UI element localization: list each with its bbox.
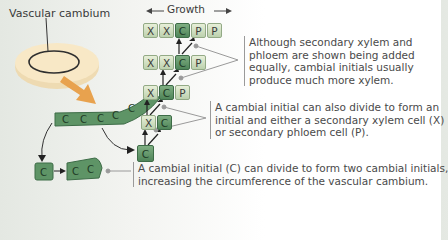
xylem-cell: X — [143, 23, 158, 38]
cambial-cell: C — [137, 145, 154, 162]
svg-text:C: C — [112, 110, 119, 121]
annotation-circumference: A cambial initial (C) can divide to form… — [133, 162, 448, 187]
phloem-cell: P — [191, 23, 206, 38]
cambial-cell: C — [159, 85, 174, 100]
xylem-cell: X — [141, 115, 156, 130]
cambial-cell: C — [175, 23, 190, 38]
svg-text:C: C — [97, 113, 104, 124]
svg-text:C: C — [40, 167, 47, 178]
phloem-cell: P — [191, 55, 206, 70]
xylem-cell: X — [143, 85, 158, 100]
growth-label: Growth — [167, 3, 205, 15]
svg-text:C: C — [62, 114, 69, 125]
cambial-cell: C — [175, 55, 190, 70]
xylem-cell: X — [159, 55, 174, 70]
phloem-cell: P — [175, 85, 190, 100]
phloem-cell: P — [207, 23, 222, 38]
svg-text:C: C — [72, 166, 79, 177]
svg-text:C: C — [87, 164, 94, 175]
svg-text:C: C — [80, 114, 87, 125]
cambial-cell: C — [157, 115, 172, 130]
annotation-xylem-production: Although secondary xylem and phloem are … — [244, 36, 415, 86]
xylem-cell: X — [143, 55, 158, 70]
svg-text:C: C — [128, 103, 135, 114]
annotation-initial-division: A cambial initial can also divide to for… — [210, 101, 444, 139]
xylem-cell: X — [159, 23, 174, 38]
vascular-cambium-label: Vascular cambium — [9, 7, 110, 20]
